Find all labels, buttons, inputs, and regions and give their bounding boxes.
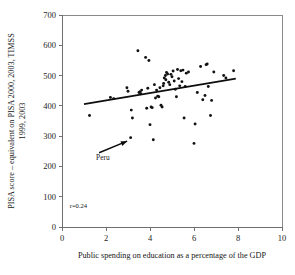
data-point: [196, 91, 199, 94]
data-point: [194, 123, 197, 126]
y-tick-label: 400: [43, 101, 56, 111]
data-point: [152, 138, 155, 141]
data-point: [176, 68, 179, 71]
data-point: [177, 77, 180, 80]
peru-arrow-icon: [99, 141, 127, 153]
data-point: [125, 86, 128, 89]
arrow-head: [120, 141, 127, 146]
y-tick-label: 0: [52, 222, 56, 232]
data-point: [180, 80, 183, 83]
data-point: [171, 75, 174, 78]
data-point: [164, 78, 167, 81]
data-point: [212, 70, 215, 73]
data-point: [147, 59, 150, 62]
data-point: [187, 70, 190, 73]
data-point: [162, 82, 165, 85]
scatter-plot-figure: 0100200300400500600700 0246810 r=0.24 Pe…: [0, 0, 295, 275]
data-point: [129, 136, 132, 139]
x-tick-label: 8: [236, 233, 240, 243]
data-point: [149, 123, 152, 126]
data-point: [157, 95, 160, 98]
data-point: [207, 85, 210, 88]
data-point: [172, 70, 175, 73]
data-point: [183, 117, 186, 120]
data-point: [193, 142, 196, 145]
data-point: [210, 99, 213, 102]
data-point: [136, 49, 139, 52]
data-point: [173, 80, 176, 83]
data-point: [145, 107, 148, 110]
x-tick-label: 2: [104, 233, 108, 243]
y-axis-title-line1: PISA score – equivalent on PISA 2000, 20…: [7, 33, 16, 209]
data-point: [144, 56, 147, 59]
y-axis-title-line2: 1999, 2003: [18, 103, 27, 140]
data-point: [209, 114, 212, 117]
y-tick-label: 700: [43, 10, 56, 20]
data-point: [199, 65, 202, 68]
y-tick-label: 600: [43, 40, 56, 50]
chart-canvas: 0100200300400500600700 0246810 r=0.24 Pe…: [0, 0, 295, 275]
y-tick-label: 500: [43, 71, 56, 81]
data-point: [175, 95, 178, 98]
data-point: [153, 83, 156, 86]
plot-frame: [62, 15, 282, 227]
data-point: [127, 90, 130, 93]
data-point: [88, 114, 91, 117]
data-point: [232, 69, 235, 72]
data-point: [140, 89, 143, 92]
data-point: [178, 84, 181, 87]
x-tick-label: 4: [148, 233, 153, 243]
data-point: [222, 74, 225, 77]
x-tick-label: 0: [60, 233, 64, 243]
data-point: [109, 96, 112, 99]
data-point: [162, 84, 165, 87]
scatter-points: [88, 49, 235, 145]
x-tick-label: 10: [278, 233, 287, 243]
data-point: [182, 69, 185, 72]
data-point: [130, 109, 133, 112]
x-tick-label: 6: [192, 233, 196, 243]
data-point: [158, 86, 161, 89]
data-point: [168, 83, 171, 86]
correlation-annotation: r=0.24: [70, 202, 88, 209]
peru-annotation-label: Peru: [96, 153, 110, 162]
data-point: [161, 106, 164, 109]
data-point: [201, 98, 204, 101]
y-tick-label: 200: [43, 161, 56, 171]
data-point: [166, 73, 169, 76]
y-axis-ticks: 0100200300400500600700: [43, 10, 62, 232]
data-point: [206, 63, 209, 66]
data-point: [204, 94, 207, 97]
y-tick-label: 300: [43, 131, 56, 141]
data-point: [146, 87, 149, 90]
x-axis-ticks: 0246810: [60, 227, 286, 243]
y-tick-label: 100: [43, 192, 56, 202]
data-point: [224, 77, 227, 80]
data-point: [151, 106, 154, 109]
x-axis-title: Public spending on education as a percen…: [78, 251, 266, 260]
data-point: [131, 117, 134, 120]
